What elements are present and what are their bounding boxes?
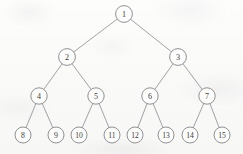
tree-edge — [74, 19, 118, 52]
tree-node-15[interactable]: 15 — [214, 127, 230, 143]
tree-node-5[interactable]: 5 — [88, 88, 104, 104]
tree-node-2[interactable]: 2 — [59, 49, 76, 66]
tree-edge — [26, 104, 36, 128]
tree-node-3[interactable]: 3 — [170, 49, 187, 66]
tree-node-11[interactable]: 11 — [104, 127, 120, 143]
edges-layer — [26, 19, 219, 128]
node-label: 3 — [176, 53, 180, 62]
tree-edge — [42, 104, 53, 128]
node-label: 7 — [205, 92, 209, 101]
tree-node-12[interactable]: 12 — [127, 127, 143, 143]
tree-node-9[interactable]: 9 — [48, 127, 64, 143]
tree-edge — [131, 19, 172, 52]
node-label: 4 — [37, 92, 41, 101]
tree-edge — [99, 104, 109, 128]
node-label: 13 — [162, 131, 170, 140]
tree-edge — [153, 104, 163, 128]
tree-node-7[interactable]: 7 — [199, 88, 215, 104]
node-label: 8 — [21, 131, 25, 140]
tree-node-8[interactable]: 8 — [15, 127, 31, 143]
tree-node-4[interactable]: 4 — [31, 88, 47, 104]
node-label: 6 — [148, 92, 152, 101]
node-label: 9 — [54, 131, 58, 140]
binary-tree-diagram: 123456789101112131415 — [0, 0, 243, 154]
tree-node-10[interactable]: 10 — [71, 127, 87, 143]
tree-edge — [82, 104, 93, 128]
node-label: 10 — [75, 131, 83, 140]
tree-edge — [155, 64, 173, 90]
tree-node-1[interactable]: 1 — [116, 6, 133, 23]
tree-edge — [210, 104, 219, 128]
tree-edge — [72, 64, 91, 90]
node-label: 2 — [65, 53, 69, 62]
node-label: 15 — [218, 131, 226, 140]
tree-node-14[interactable]: 14 — [182, 127, 198, 143]
node-label: 5 — [94, 92, 98, 101]
tree-edge — [44, 64, 62, 90]
nodes-layer: 123456789101112131415 — [15, 6, 230, 143]
tree-edge — [183, 64, 202, 90]
tree-node-6[interactable]: 6 — [142, 88, 158, 104]
tree-edge — [138, 104, 147, 128]
tree-edge — [193, 104, 204, 128]
node-label: 14 — [186, 131, 194, 140]
node-label: 1 — [122, 10, 126, 19]
node-label: 11 — [108, 131, 116, 140]
node-label: 12 — [131, 131, 139, 140]
tree-node-13[interactable]: 13 — [158, 127, 174, 143]
tree-canvas: 123456789101112131415 — [0, 0, 243, 154]
